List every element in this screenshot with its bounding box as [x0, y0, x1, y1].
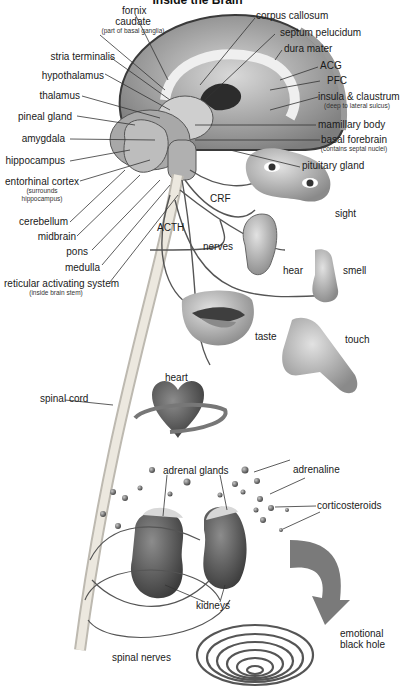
label-stria-terminalis: stria terminalis [0, 51, 115, 62]
label-pfc: PFC [327, 75, 347, 86]
label-emotional-line-2: black hole [340, 639, 385, 650]
label-adrenaline: adrenaline [293, 464, 340, 475]
hand-illustration [282, 318, 357, 393]
label-midbrain: midbrain [0, 231, 76, 242]
label-fornix: fornix [122, 5, 146, 16]
downward-arrow [290, 540, 350, 625]
label-spinal-nerves: spinal nerves [112, 652, 171, 663]
label-basal-forebrain: basal forebrain (contains septal nuclei) [312, 134, 396, 153]
label-cerebellum: cerebellum [0, 216, 68, 227]
label-medulla: medulla [0, 262, 100, 273]
label-entorhinal-text: entorhinal cortex [2, 176, 82, 187]
label-entorhinal-cortex: entorhinal cortex (surrounds hippocampus… [2, 176, 82, 203]
hormone-particles [100, 467, 289, 533]
brain-illustration [110, 15, 345, 180]
label-thalamus: thalamus [0, 90, 80, 101]
label-adrenal-glands: adrenal glands [163, 465, 229, 476]
label-kidneys: kidneys [196, 600, 230, 611]
label-amygdala: amygdala [0, 133, 65, 144]
label-emotional-black-hole: emotional black hole [340, 628, 385, 650]
label-corpus-callosum: corpus callosum [256, 10, 328, 21]
label-insula-text: insula & claustrum [318, 91, 396, 102]
label-hypothalamus: hypothalamus [0, 70, 104, 81]
label-acth: ACTH [157, 222, 184, 233]
label-pituitary-gland: pituitary gland [302, 160, 364, 171]
label-corticosteroids: corticosteroids [317, 500, 381, 511]
label-taste: taste [255, 331, 277, 342]
spiral-black-hole [197, 625, 313, 685]
nose-illustration [312, 249, 338, 302]
label-hippocampus: hippocampus [0, 155, 65, 166]
label-nerves: nerves [203, 241, 233, 252]
label-smell: smell [343, 265, 366, 276]
eyes-illustration [246, 148, 331, 201]
label-mamillary-body: mamillary body [318, 119, 385, 130]
label-pons: pons [0, 246, 88, 257]
label-septum-pelucidum: septum pelucidum [280, 27, 361, 38]
ear-illustration [243, 214, 277, 275]
label-dura-mater: dura mater [284, 43, 332, 54]
label-reticular-activating-system: reticular activating system (inside brai… [4, 278, 108, 297]
label-crf: CRF [210, 193, 231, 204]
label-caudate-note: (part of basal ganglia) [87, 27, 179, 35]
label-entorhinal-note-1: (surrounds [2, 187, 82, 195]
label-insula-claustrum: insula & claustrum (deep to lateral sulc… [318, 91, 396, 110]
label-entorhinal-note-2: hippocampus) [2, 195, 82, 203]
label-hear: hear [283, 265, 303, 276]
label-basal-forebrain-note: (contains septal nuclei) [312, 145, 396, 153]
label-caudate: caudate (part of basal ganglia) [87, 16, 179, 35]
label-heart: heart [165, 372, 188, 383]
left-kidney [131, 511, 183, 598]
label-pineal-gland: pineal gland [0, 111, 72, 122]
label-emotional-line-1: emotional [340, 628, 385, 639]
label-touch: touch [345, 334, 369, 345]
right-kidney [203, 507, 246, 589]
label-caudate-text: caudate [87, 16, 179, 27]
label-basal-forebrain-text: basal forebrain [312, 134, 396, 145]
label-acg: ACG [320, 60, 342, 71]
label-sight: sight [335, 208, 356, 219]
label-insula-note: (deep to lateral sulcus) [318, 102, 396, 110]
label-reticular-text: reticular activating system [4, 278, 108, 289]
label-reticular-note: (inside brain stem) [4, 289, 108, 297]
label-spinal-cord: spinal cord [40, 393, 88, 404]
